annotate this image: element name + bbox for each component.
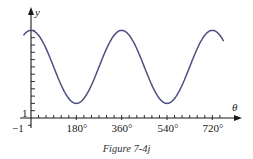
y-axis-label: y — [34, 6, 40, 18]
x-tick-label-180: 180° — [67, 122, 88, 134]
x-axis-arrow-icon — [234, 115, 242, 121]
axes — [20, 12, 238, 128]
x-axis-label: θ — [232, 101, 238, 113]
chart: y θ 1 −1 180° 360° 540° 720° — [0, 0, 253, 159]
cosine-curve — [23, 30, 223, 103]
x-tick-label-neg1: −1 — [12, 122, 24, 134]
x-tick-label-540: 540° — [158, 122, 179, 134]
x-tick-label-720: 720° — [203, 122, 224, 134]
y-axis-arrow-icon — [28, 7, 34, 15]
figure-caption: Figure 7-4j — [0, 143, 253, 154]
y-tick-label-1: 1 — [22, 107, 28, 119]
x-tick-label-360: 360° — [112, 122, 133, 134]
